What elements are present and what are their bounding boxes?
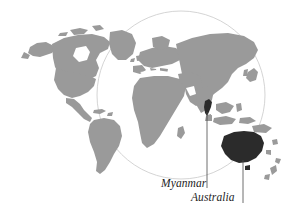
mexico-central-america-shape: [66, 98, 92, 122]
korea-japan-shape: [243, 68, 258, 82]
south-america-shape: [88, 118, 122, 174]
myanmar-label: Myanmar: [161, 177, 206, 189]
myanmar-highlight-shape[interactable]: [204, 99, 212, 116]
caribbean-islands-shape: [93, 109, 113, 116]
australia-highlight-shape[interactable]: [221, 131, 264, 163]
highlighted-regions-layer: [204, 99, 264, 170]
pacific-islands-shape: [266, 139, 281, 164]
greenland-shape: [109, 30, 136, 60]
southeast-asia-shape: [216, 102, 234, 114]
tasmania-highlight-shape: [245, 165, 250, 170]
madagascar-shape: [177, 126, 185, 139]
australia-label: Australia: [191, 191, 235, 203]
alaska-shape: [21, 42, 55, 59]
philippines-shape: [236, 103, 242, 112]
world-map-figure: Myanmar Australia: [0, 0, 289, 219]
africa-shape: [132, 76, 186, 148]
new-guinea-shape: [252, 124, 272, 133]
asia-shape: [176, 33, 258, 106]
new-zealand-shape: [264, 165, 277, 180]
world-map-graphic: [0, 0, 289, 219]
indonesia-shape: [205, 115, 256, 125]
arctic-islands-shape: [58, 25, 104, 36]
